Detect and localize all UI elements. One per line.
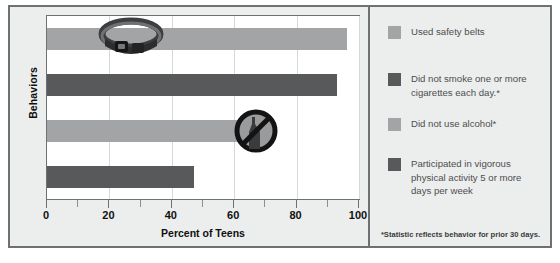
x-tick bbox=[233, 200, 234, 208]
legend-label: Did not use alcohol* bbox=[411, 117, 541, 131]
legend-panel: Used safety beltsDid not smoke one or mo… bbox=[368, 7, 550, 246]
x-tick-label: 0 bbox=[43, 209, 49, 221]
legend-item[interactable]: Did not smoke one or more cigarettes eac… bbox=[388, 72, 541, 99]
x-tick-minor bbox=[77, 200, 78, 207]
x-tick bbox=[108, 200, 109, 208]
bar bbox=[47, 28, 347, 50]
legend-label: Participated in vigorous physical activi… bbox=[411, 157, 541, 198]
legend-label: Used safety belts bbox=[411, 25, 541, 39]
bar bbox=[47, 166, 194, 188]
x-tick-minor bbox=[327, 200, 328, 207]
x-axis-ticks bbox=[46, 200, 360, 208]
x-tick bbox=[358, 200, 359, 208]
bar-row bbox=[47, 108, 359, 154]
legend-swatch bbox=[388, 158, 401, 171]
chart-panel: Behaviors 020406080100 Percent of Teens bbox=[10, 7, 366, 246]
x-tick-label: 20 bbox=[102, 209, 114, 221]
legend-label: Did not smoke one or more cigarettes eac… bbox=[411, 72, 541, 99]
x-axis-title: Percent of Teens bbox=[46, 227, 360, 239]
x-tick bbox=[171, 200, 172, 208]
legend-swatch bbox=[388, 26, 401, 39]
x-tick-minor bbox=[264, 200, 265, 207]
x-tick-minor bbox=[140, 200, 141, 207]
x-tick-label: 80 bbox=[289, 209, 301, 221]
x-tick-label: 100 bbox=[349, 209, 367, 221]
x-tick bbox=[296, 200, 297, 208]
legend-swatch bbox=[388, 73, 401, 86]
x-tick-label: 40 bbox=[165, 209, 177, 221]
x-tick-label: 60 bbox=[227, 209, 239, 221]
bar-row bbox=[47, 154, 359, 200]
gridline bbox=[359, 16, 360, 199]
x-axis-tick-labels: 020406080100 bbox=[46, 209, 360, 225]
y-axis-title: Behaviors bbox=[27, 53, 39, 133]
legend-item[interactable]: Used safety belts bbox=[388, 25, 541, 39]
footnote: *Statistic reflects behavior for prior 3… bbox=[381, 230, 540, 239]
legend-swatch bbox=[388, 118, 401, 131]
bar-row bbox=[47, 62, 359, 108]
chart-figure: Behaviors 020406080100 Percent of Teens … bbox=[8, 5, 552, 248]
bar bbox=[47, 120, 269, 142]
legend-item[interactable]: Did not use alcohol* bbox=[388, 117, 541, 131]
plot-area bbox=[46, 15, 360, 200]
x-tick bbox=[46, 200, 47, 208]
bar bbox=[47, 74, 337, 96]
x-tick-minor bbox=[202, 200, 203, 207]
bar-row bbox=[47, 16, 359, 62]
legend-item[interactable]: Participated in vigorous physical activi… bbox=[388, 157, 541, 198]
